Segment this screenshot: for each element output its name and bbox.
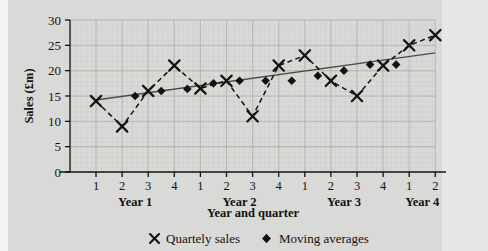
x-tick-label: 3	[145, 179, 151, 193]
x-tick-label: 3	[249, 179, 255, 193]
chart-legend: Quartely sales Moving averages	[150, 231, 369, 246]
x-tick-label: 1	[406, 179, 412, 193]
x-tick-label: 2	[223, 179, 229, 193]
x-tick-label: 1	[93, 179, 99, 193]
x-tick-label: 1	[302, 179, 308, 193]
x-tick-label: 4	[380, 179, 387, 193]
legend-x-icon	[150, 234, 159, 243]
y-tick-label: 0	[55, 165, 62, 180]
x-tick-label: 2	[432, 179, 438, 193]
legend-label-quarterly-sales: Quartely sales	[166, 231, 240, 246]
y-tick-label: 30	[48, 13, 61, 28]
y-tick-label: 15	[48, 89, 61, 104]
y-tick-label: 5	[55, 139, 62, 154]
legend-diamond-icon	[262, 234, 271, 243]
chart-figure: 051015202530 12341234123412 Year 1Year 2…	[0, 0, 488, 251]
x-tick-label: 2	[328, 179, 334, 193]
y-axis-ticks: 051015202530	[48, 13, 70, 180]
x-year-label: Year 3	[327, 195, 361, 209]
x-tick-label: 3	[354, 179, 360, 193]
x-year-label: Year 1	[118, 195, 152, 209]
x-tick-label: 2	[119, 179, 125, 193]
y-tick-label: 25	[48, 38, 61, 53]
x-axis-title: Year and quarter	[207, 206, 300, 220]
chart-page: 051015202530 12341234123412 Year 1Year 2…	[0, 0, 488, 251]
legend-item-moving-averages: Moving averages	[262, 231, 369, 246]
x-tick-label: 1	[197, 179, 203, 193]
chart-svg: 051015202530 12341234123412 Year 1Year 2…	[0, 0, 488, 251]
legend-item-quarterly-sales: Quartely sales	[150, 231, 240, 246]
legend-label-moving-averages: Moving averages	[279, 231, 369, 246]
x-axis-ticks: 12341234123412	[93, 172, 439, 193]
x-tick-label: 4	[276, 179, 283, 193]
y-axis-title: Sales (£m)	[22, 68, 36, 123]
y-tick-label: 20	[48, 63, 61, 78]
y-tick-label: 10	[48, 114, 61, 129]
x-tick-label: 4	[171, 179, 178, 193]
x-year-label: Year 4	[405, 195, 440, 209]
